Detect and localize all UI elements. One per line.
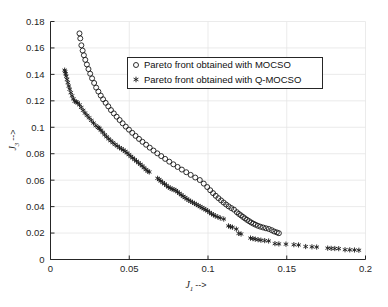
x-axis-title: J1--> (185, 279, 206, 293)
chart-legend: Pareto front obtained with MOCSOPareto f… (128, 58, 323, 89)
data-point-circle (111, 111, 116, 116)
y-tick-label: 0.1 (31, 122, 44, 133)
data-point-star (65, 77, 70, 82)
data-point-star (310, 244, 315, 249)
data-point-circle (114, 114, 119, 119)
svg-text:J1-->: J1--> (185, 279, 206, 293)
data-point-circle (130, 130, 135, 135)
y-axis-title: J3--> (7, 129, 21, 150)
data-point-star (343, 247, 348, 252)
data-point-star (357, 248, 362, 253)
x-axis-title-subscript: 1 (190, 285, 194, 293)
x-tick-label: 0.05 (120, 263, 139, 274)
data-point-star (277, 241, 282, 246)
data-point-star (336, 246, 341, 251)
y-tick-label: 0 (39, 254, 44, 265)
y-tick-label: 0.02 (26, 227, 45, 238)
y-tick-label: 0.12 (26, 95, 45, 106)
x-tick-label: 0.2 (359, 263, 372, 274)
data-point-star (284, 242, 289, 247)
y-tick-label: 0.04 (26, 201, 45, 212)
y-tick-label: 0.08 (26, 148, 45, 159)
data-point-star (273, 241, 278, 246)
y-tick-labels: 00.020.040.060.080.10.120.140.160.18 (26, 16, 45, 265)
data-point-star (303, 244, 308, 249)
data-point-star (67, 87, 72, 92)
data-point-star (66, 80, 71, 85)
data-point-star (314, 244, 319, 249)
x-axis-title-arrow: --> (195, 280, 206, 290)
data-point-star (266, 238, 271, 243)
legend-label: Pareto front obtained with Q-MOCSO (144, 74, 301, 85)
data-point-circle (117, 118, 122, 123)
data-point-star (234, 226, 239, 231)
data-point-star (333, 246, 338, 251)
data-point-star (67, 83, 72, 88)
data-point-star (348, 247, 353, 252)
y-tick-label: 0.16 (26, 42, 45, 53)
data-point-star (352, 247, 357, 252)
data-point-star (296, 242, 301, 247)
x-tick-label: 0.15 (278, 263, 297, 274)
y-axis-title-subscript: 3 (13, 142, 21, 147)
data-point-circle (78, 36, 83, 41)
y-axis-title-arrow: --> (8, 129, 18, 140)
series-qmocso-markers (62, 68, 361, 253)
y-tick-label: 0.14 (26, 69, 45, 80)
x-tick-label: 0.1 (201, 263, 214, 274)
data-point-star (262, 238, 267, 243)
data-point-circle (108, 108, 113, 113)
x-tick-labels: 00.050.10.150.2 (48, 263, 372, 274)
legend-label: Pareto front obtained with MOCSO (144, 59, 291, 70)
data-point-circle (123, 124, 128, 129)
scatter-plot: 00.050.10.150.2 00.020.040.060.080.10.12… (0, 0, 388, 307)
y-tick-label: 0.18 (26, 16, 45, 27)
x-tick-label: 0 (48, 263, 53, 274)
data-point-star (292, 242, 297, 247)
data-point-circle (205, 185, 210, 190)
data-point-circle (77, 31, 82, 36)
data-point-circle (188, 172, 193, 177)
data-point-circle (79, 43, 84, 48)
data-point-circle (208, 188, 213, 193)
y-tick-label: 0.06 (26, 175, 45, 186)
svg-text:J3-->: J3--> (7, 129, 21, 150)
chart-figure: 00.050.10.150.2 00.020.040.060.080.10.12… (0, 0, 388, 307)
